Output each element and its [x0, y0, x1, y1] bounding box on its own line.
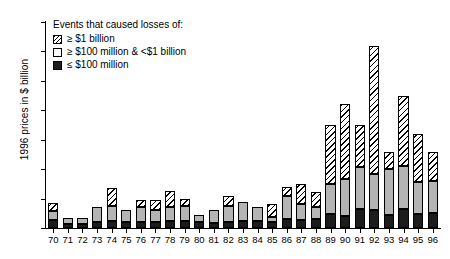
x-axis-tick-mark: [272, 229, 273, 233]
bar-83: [238, 202, 248, 228]
bar-segment-83-0: [238, 221, 248, 228]
legend-title: Events that caused losses of:: [53, 20, 283, 30]
legend-label-ge-1-billion: ≥ $1 billion: [67, 34, 115, 44]
bar-72: [77, 218, 87, 228]
bar-91: [355, 125, 365, 228]
bar-96: [428, 152, 438, 229]
bar-78: [165, 191, 175, 228]
bar-segment-89-2: [325, 125, 335, 184]
bar-95: [413, 134, 423, 228]
bar-segment-70-0: [48, 220, 58, 228]
bar-segment-79-1: [180, 206, 190, 221]
x-axis-tick-mark: [287, 229, 288, 233]
bar-segment-87-1: [296, 204, 306, 219]
bar-76: [136, 200, 146, 228]
bar-segment-96-1: [428, 181, 438, 213]
x-axis-tick-mark: [53, 229, 54, 233]
bar-segment-89-0: [325, 214, 335, 228]
y-axis-tick-mark: [41, 169, 45, 170]
x-axis-tick-mark: [243, 229, 244, 233]
bar-77: [150, 200, 160, 228]
bar-81: [209, 210, 219, 228]
bar-94: [398, 96, 408, 228]
bar-segment-88-2: [311, 192, 321, 207]
y-axis-tick-mark: [41, 51, 45, 52]
bar-segment-75-1: [121, 210, 131, 222]
bar-segment-84-0: [252, 221, 262, 228]
bar-segment-91-0: [355, 209, 365, 228]
x-axis-tick-mark: [433, 229, 434, 233]
bar-74: [107, 188, 117, 228]
bar-73: [92, 207, 102, 228]
bar-88: [311, 192, 321, 228]
bar-90: [340, 104, 350, 228]
bar-segment-95-1: [413, 182, 423, 214]
bar-segment-92-2: [369, 46, 379, 174]
x-axis-tick-mark: [68, 229, 69, 233]
bar-79: [180, 199, 190, 228]
bar-87: [296, 184, 306, 228]
bar-segment-89-1: [325, 184, 335, 213]
x-axis-tick-mark: [112, 229, 113, 233]
bar-segment-77-0: [150, 222, 160, 228]
bar-segment-71-1: [63, 218, 73, 224]
bar-segment-94-1: [398, 166, 408, 210]
y-axis-tick-mark: [41, 110, 45, 111]
x-axis-tick-mark: [185, 229, 186, 233]
bar-segment-79-2: [180, 199, 190, 207]
x-axis-tick-mark: [418, 229, 419, 233]
bar-segment-96-2: [428, 152, 438, 181]
x-axis-tick-mark: [214, 229, 215, 233]
bar-segment-77-1: [150, 210, 160, 222]
legend-swatch-black-icon: [53, 61, 62, 70]
legend-label-100m-to-1b: ≥ $100 million & <$1 billion: [67, 47, 186, 57]
x-axis-tick-label-96: 96: [422, 235, 444, 245]
bar-segment-73-0: [92, 222, 102, 228]
y-axis-tick-mark: [41, 199, 45, 200]
x-axis-tick-mark: [301, 229, 302, 233]
bar-segment-80-0: [194, 222, 204, 228]
y-axis-tick-mark: [41, 140, 45, 141]
bar-segment-85-2: [267, 204, 277, 217]
bar-segment-76-1: [136, 207, 146, 222]
x-axis-tick-mark: [155, 229, 156, 233]
bar-segment-79-0: [180, 221, 190, 228]
y-axis-tick-mark: [41, 81, 45, 82]
bar-segment-78-2: [165, 191, 175, 207]
legend-item-100m-to-1b: ≥ $100 million & <$1 billion: [53, 47, 283, 57]
bar-segment-92-0: [369, 210, 379, 228]
bar-segment-74-2: [107, 188, 117, 206]
x-axis-tick-mark: [228, 229, 229, 233]
x-axis-tick-mark: [374, 229, 375, 233]
bar-segment-80-1: [194, 215, 204, 221]
bar-segment-74-1: [107, 206, 117, 221]
x-axis-tick-mark: [404, 229, 405, 233]
bar-segment-90-0: [340, 216, 350, 228]
bar-segment-86-2: [282, 187, 292, 196]
bar-93: [384, 152, 394, 229]
bar-segment-88-1: [311, 207, 321, 219]
x-axis-tick-mark: [141, 229, 142, 233]
bar-84: [252, 207, 262, 228]
bar-segment-77-2: [150, 200, 160, 209]
bar-segment-90-1: [340, 179, 350, 217]
bar-82: [223, 196, 233, 228]
bar-segment-88-0: [311, 219, 321, 228]
bar-segment-95-0: [413, 214, 423, 228]
bar-segment-70-1: [48, 211, 58, 220]
bar-segment-78-1: [165, 207, 175, 221]
bar-segment-93-2: [384, 152, 394, 170]
bar-segment-72-0: [77, 224, 87, 228]
bar-segment-71-0: [63, 224, 73, 228]
disaster-losses-bar-chart: 1996 prices in $ billion 05101520253035 …: [0, 0, 450, 259]
bar-segment-82-0: [223, 222, 233, 228]
x-axis-tick-mark: [126, 229, 127, 233]
y-axis-tick-mark: [41, 22, 45, 23]
bar-segment-76-2: [136, 200, 146, 207]
bar-segment-72-1: [77, 218, 87, 224]
legend-swatch-white-icon: [53, 48, 62, 57]
legend-item-le-100-million: ≤ $100 million: [53, 60, 283, 70]
x-axis-tick-mark: [389, 229, 390, 233]
bar-segment-86-1: [282, 196, 292, 220]
x-axis-tick-mark: [360, 229, 361, 233]
